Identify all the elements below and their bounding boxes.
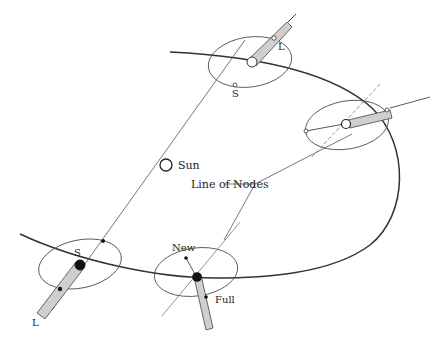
left-position: S L: [32, 232, 126, 328]
moon-new: [184, 256, 188, 260]
label-new: New: [172, 242, 196, 253]
line-of-nodes-leader: [225, 134, 352, 184]
right-position: [301, 84, 430, 158]
label-full: Full: [215, 294, 235, 305]
moon-left-l: [58, 287, 62, 291]
label-s-top: S: [232, 88, 239, 99]
moon-top-s: [233, 83, 237, 87]
label-l-top: L: [278, 41, 285, 52]
earth-bottom: [192, 272, 202, 282]
label-line-of-nodes: Line of Nodes: [191, 178, 269, 191]
moon-full: [204, 295, 208, 299]
bottom-position: New Full: [151, 222, 241, 330]
moon-right-2: [385, 108, 389, 112]
earth-top: [247, 57, 257, 67]
line-of-nodes-leader-2: [224, 184, 255, 240]
sun-group: Sun: [160, 159, 200, 172]
earth-right: [342, 120, 351, 129]
label-l-left: L: [32, 317, 39, 328]
earth-shadow-bottom: [194, 275, 213, 330]
lunar-orbit-diagram: S L Sun Line of Nodes S L New: [0, 0, 446, 337]
earth-orbit-path: [20, 52, 400, 278]
moon-top-l: [272, 36, 276, 40]
moon-right-1: [304, 129, 308, 133]
earth-left: [75, 260, 85, 270]
sun: [160, 159, 172, 171]
moon-orbit-bottom: [151, 242, 241, 301]
label-s-left: S: [74, 247, 81, 258]
moon-left-s: [101, 239, 105, 243]
label-sun: Sun: [178, 159, 200, 172]
